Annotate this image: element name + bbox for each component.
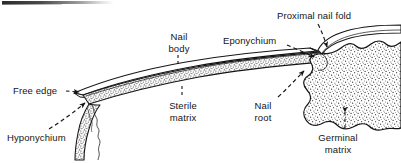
label-germinal-matrix-line1: Germinal xyxy=(307,132,369,144)
label-germinal-matrix-line2: matrix xyxy=(307,144,369,156)
germinal-matrix-shape xyxy=(304,41,401,130)
leader-nail-root xyxy=(278,71,304,97)
nail-anatomy-figure: Proximal nail fold Eponychium Nail body … xyxy=(0,0,401,163)
label-hyponychium: Hyponychium xyxy=(7,132,66,144)
label-nail-body-line1: Nail xyxy=(163,31,195,43)
label-free-edge: Free edge xyxy=(13,85,57,97)
label-nail-root-line2: root xyxy=(247,112,279,124)
label-nail-body-line2: body xyxy=(163,43,195,55)
label-sterile-matrix-line1: Sterile xyxy=(157,100,209,112)
label-sterile-matrix-line2: matrix xyxy=(157,112,209,124)
hyponychium-shape xyxy=(75,104,100,160)
label-proximal-nail-fold: Proximal nail fold xyxy=(277,10,351,22)
label-eponychium: Eponychium xyxy=(223,35,276,47)
scan-smudge-bar-secondary xyxy=(2,4,62,5)
label-nail-root-line1: Nail xyxy=(247,100,279,112)
